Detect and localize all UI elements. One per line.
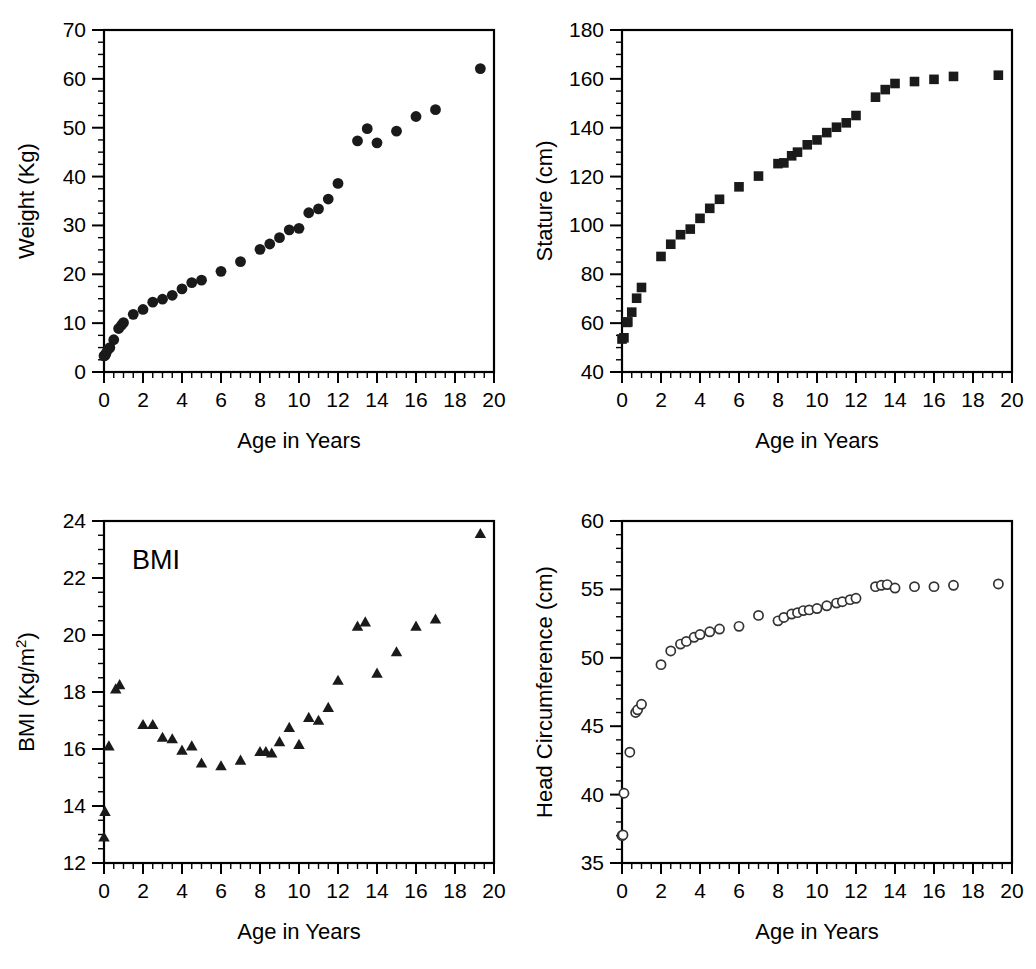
y-tick-label: 80 [581,262,604,285]
x-tick-label: 16 [922,388,945,411]
data-point [362,123,373,134]
y-tick-label: 60 [581,311,604,334]
x-tick-label: 8 [254,388,266,411]
data-point [822,601,831,610]
data-point [294,223,305,234]
data-point [352,136,363,147]
x-tick-label: 20 [482,879,505,902]
y-tick-label: 40 [581,360,604,383]
y-tick-label: 160 [569,67,604,90]
data-point [430,104,441,115]
y-tick-label: 140 [569,116,604,139]
data-point [215,760,227,770]
data-point [274,736,286,746]
x-tick-label: 6 [215,879,227,902]
data-point [177,284,188,295]
x-tick-label: 4 [694,388,706,411]
x-tick-label: 0 [616,388,628,411]
x-tick-label: 16 [922,879,945,902]
data-point [627,307,637,317]
data-point [99,806,111,816]
data-point [323,194,334,205]
data-point [715,624,724,633]
data-point [632,293,642,303]
data-point [802,140,812,150]
data-point [475,63,486,74]
data-point [637,283,647,293]
y-tick-label: 12 [63,851,86,874]
data-point [167,733,179,743]
y-tick-label: 0 [74,360,86,383]
y-tick-label: 50 [63,116,86,139]
x-tick-label: 14 [883,879,907,902]
panel-weight: 02468101214161820010203040506070Age in Y… [0,0,518,478]
x-tick-label: 14 [365,879,389,902]
data-point [98,831,110,841]
y-tick-label: 40 [63,165,86,188]
data-point [313,203,324,214]
data-point [371,668,383,678]
data-point [890,583,899,592]
x-tick-label: 18 [961,388,984,411]
data-point [618,830,627,839]
data-point [284,722,296,732]
data-point [157,294,168,305]
y-axis-title: Stature (cm) [532,140,557,261]
y-tick-label: 14 [63,794,87,817]
data-point [303,207,314,218]
data-point [910,77,920,87]
data-point [157,732,169,742]
y-tick-label: 60 [581,509,604,532]
y-tick-label: 10 [63,311,86,334]
data-point [147,297,158,308]
x-tick-label: 0 [98,879,110,902]
data-point [475,528,487,538]
data-point [715,194,725,204]
y-tick-label: 50 [581,646,604,669]
data-point [235,256,246,267]
x-axis-title: Age in Years [755,428,879,453]
data-point [705,204,715,214]
data-point [637,700,646,709]
x-tick-label: 0 [98,388,110,411]
data-point [929,582,938,591]
data-point [284,224,295,235]
data-point [333,178,344,189]
x-tick-label: 14 [883,388,907,411]
x-tick-label: 12 [844,388,867,411]
data-point [372,137,383,148]
x-tick-label: 12 [844,879,867,902]
x-tick-label: 12 [326,388,349,411]
data-point [841,118,851,128]
data-point [118,317,129,328]
data-point [812,135,822,145]
data-point [676,230,686,240]
data-point [994,70,1004,80]
data-point [332,675,344,685]
data-point [108,334,119,345]
x-tick-label: 6 [215,388,227,411]
x-tick-label: 10 [805,879,828,902]
data-point [910,582,919,591]
data-point [832,122,842,132]
data-point [685,224,695,234]
x-tick-label: 18 [961,879,984,902]
plot-frame [622,521,1012,863]
x-tick-label: 20 [1000,879,1023,902]
x-tick-label: 16 [404,388,427,411]
y-tick-label: 30 [63,213,86,236]
data-point [871,92,881,102]
data-point [754,171,764,181]
y-tick-label: 55 [581,577,604,600]
x-axis-title: Age in Years [237,428,361,453]
data-point [391,126,402,137]
data-point [625,748,634,757]
y-tick-label: 18 [63,680,86,703]
data-point [235,755,247,765]
data-point [619,333,629,343]
data-point [890,79,900,89]
data-point [167,290,178,301]
x-tick-label: 0 [616,879,628,902]
y-axis-title: BMI (Kg/m2) [12,632,39,752]
data-point [313,715,325,725]
